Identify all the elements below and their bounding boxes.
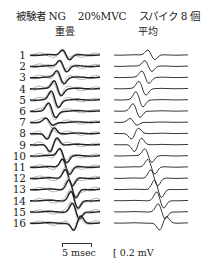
trace-line — [114, 92, 188, 107]
trace-plot — [0, 0, 202, 276]
trace-line — [30, 61, 100, 69]
trace-line — [114, 170, 188, 186]
time-scale-label: 5 msec — [62, 247, 96, 258]
trace-line — [30, 149, 100, 163]
trace-line — [114, 119, 188, 126]
trace-line — [114, 81, 188, 95]
trace-line — [30, 131, 100, 140]
trace-line — [30, 61, 100, 72]
trace-line — [30, 71, 100, 84]
voltage-scale-bar: [ 0.2 mV — [113, 247, 154, 258]
trace-line — [30, 128, 100, 139]
trace-line — [30, 177, 100, 198]
trace-line — [30, 138, 100, 152]
time-scale-bar-line — [62, 243, 92, 247]
trace-line — [30, 192, 100, 209]
trace-line — [114, 217, 188, 230]
trace-line — [114, 50, 188, 59]
trace-line — [114, 104, 188, 118]
trace-line — [114, 192, 188, 208]
trace-line — [114, 138, 188, 151]
trace-line — [114, 149, 188, 163]
trace-line — [30, 149, 100, 160]
trace-line — [30, 216, 100, 230]
voltage-scale-label: [ 0.2 mV — [113, 247, 154, 258]
trace-line — [30, 191, 100, 207]
trace-line — [30, 204, 100, 219]
time-scale-bar: 5 msec — [62, 247, 96, 258]
trace-line — [114, 71, 188, 83]
trace-line — [114, 61, 188, 72]
trace-line — [114, 128, 188, 139]
trace-line — [30, 128, 100, 138]
trace-line — [30, 140, 100, 154]
trace-line — [114, 180, 188, 197]
trace-line — [114, 204, 188, 219]
trace-line — [30, 203, 100, 218]
trace-line — [30, 102, 100, 118]
